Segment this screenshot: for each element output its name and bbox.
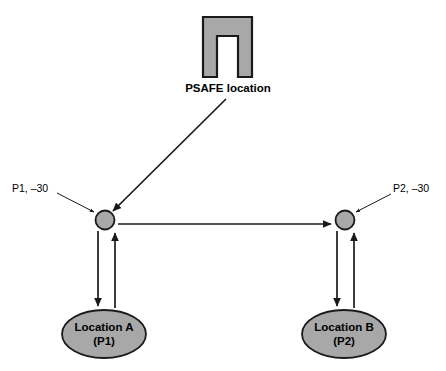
location-a-label-line2: (P1) [93,335,115,347]
psafe-location-label: PSAFE location [185,82,271,94]
location-a-ellipse [62,310,146,358]
p2-node-label: P2, –30 [393,182,429,194]
location-b-ellipse [302,310,386,358]
location-a-label-line1: Location A [75,321,134,333]
p2-label-pointer [356,194,391,212]
p1-label-pointer [57,193,94,212]
p2-node-circle [336,211,355,230]
psafe-arch-shape [203,17,252,77]
diagram-canvas: PSAFE location Location A (P1) Location … [0,0,446,371]
diagram-svg: PSAFE location Location A (P1) Location … [0,0,446,371]
location-b-label-line1: Location B [314,321,373,333]
p1-node-label: P1, –30 [12,182,48,194]
location-b-label-line2: (P2) [333,335,355,347]
p1-node-circle [96,211,115,230]
psafe-to-p1-arrow [113,99,226,211]
